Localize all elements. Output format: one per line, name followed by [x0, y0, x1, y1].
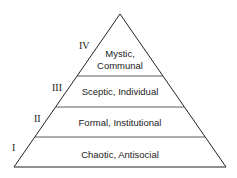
level-3-numeral: III — [52, 82, 62, 93]
level-2-numeral: II — [34, 113, 41, 124]
level-3-label: Sceptic, Individual — [82, 86, 159, 97]
level-4-numeral: IV — [79, 40, 90, 51]
level-2-label: Formal, Institutional — [79, 117, 162, 128]
pyramid-diagram: Mystic, Communal Sceptic, Individual For… — [0, 0, 237, 178]
level-1-label: Chaotic, Antisocial — [81, 149, 159, 160]
level-4-label-line-1: Mystic, — [105, 48, 135, 59]
level-1-numeral: I — [12, 142, 15, 153]
level-4-label-line-2: Communal — [97, 60, 143, 71]
